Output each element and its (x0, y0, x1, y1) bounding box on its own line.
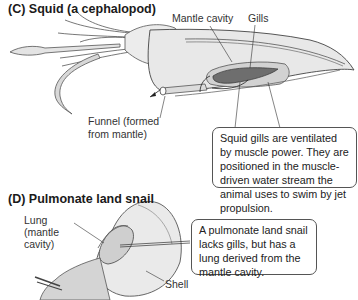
leader-callout-squid (268, 82, 280, 128)
label-funnel-line2: from mantle) (88, 128, 147, 140)
leader-lung (74, 223, 104, 243)
label-shell: Shell (165, 278, 188, 290)
snail-callout: A pulmonate land snail lacks gills, but … (191, 219, 317, 275)
squid-arm (58, 33, 128, 37)
arrowhead (150, 92, 156, 97)
squid-arm (80, 37, 130, 42)
snail-heading: (D) Pulmonate land snail (8, 192, 154, 206)
label-lung-line3: cavity) (24, 238, 54, 250)
label-lung-line1: Lung (24, 214, 47, 226)
squid-curled-arm (55, 54, 100, 114)
squid-tentacle (10, 44, 120, 55)
squid-heading: (C) Squid (a cephalopod) (8, 2, 156, 16)
snail-body (40, 258, 110, 300)
label-mantle-cavity: Mantle cavity (172, 12, 233, 24)
label-lung-line2: (mantle (24, 226, 59, 238)
squid-callout: Squid gills are ventilated by muscle pow… (212, 127, 357, 188)
label-gills: Gills (248, 12, 268, 24)
leader-funnel (160, 96, 165, 118)
squid-arm (65, 20, 130, 33)
funnel-opening (160, 87, 166, 95)
label-funnel-line1: Funnel (formed (88, 115, 159, 127)
